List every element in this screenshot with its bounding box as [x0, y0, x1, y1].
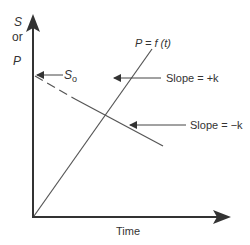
y-label-s: S: [14, 16, 22, 28]
slope-pos-label: Slope = +k: [166, 73, 219, 84]
p-function-label: P = f (t): [135, 38, 171, 49]
slope-neg-label: Slope = −k: [190, 120, 243, 131]
x-label-time: Time: [116, 226, 140, 237]
y-label-p: P: [13, 55, 21, 67]
y-label-or: or: [12, 31, 23, 43]
p-line: [34, 49, 152, 216]
s0-label: So: [64, 69, 77, 84]
